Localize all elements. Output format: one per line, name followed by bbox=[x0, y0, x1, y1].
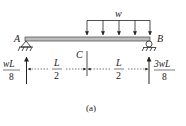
distributed-load bbox=[87, 21, 150, 36]
load-label: w bbox=[115, 8, 122, 19]
dimension-right-label: L 2 bbox=[114, 57, 124, 81]
beam-diagram: w A B C L 2 L 2 bbox=[0, 0, 186, 126]
beam bbox=[25, 37, 150, 41]
svg-text:2: 2 bbox=[54, 70, 59, 81]
left-reaction-label: wL 8 bbox=[3, 59, 20, 82]
point-a-label: A bbox=[13, 33, 21, 44]
svg-text:8: 8 bbox=[9, 72, 14, 82]
pin-support-icon bbox=[18, 41, 33, 51]
svg-text:2: 2 bbox=[116, 70, 121, 81]
svg-text:L: L bbox=[115, 57, 122, 68]
point-c-label: C bbox=[76, 49, 83, 60]
svg-text:L: L bbox=[53, 57, 60, 68]
svg-text:wL: wL bbox=[3, 59, 15, 69]
figure-caption: (a) bbox=[86, 103, 96, 113]
svg-text:3wL: 3wL bbox=[153, 59, 170, 69]
point-b-label: B bbox=[157, 33, 163, 44]
dimension-left-label: L 2 bbox=[52, 57, 62, 81]
right-reaction-label: 3wL 8 bbox=[153, 59, 175, 82]
roller-support-icon bbox=[142, 41, 156, 51]
svg-text:8: 8 bbox=[162, 72, 167, 82]
